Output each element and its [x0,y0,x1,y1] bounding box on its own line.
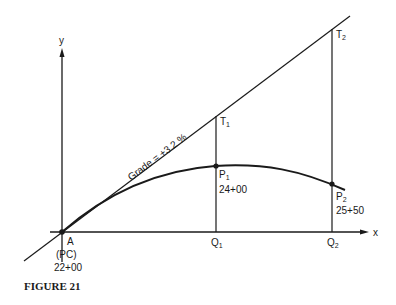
figure-caption: FIGURE 21 [24,280,81,292]
vertical-curve-diagram: y x Grade = +3.2 % A (PC) 22+00 T1 T2 P1… [0,0,396,305]
vertical-curve [62,165,345,232]
point-q1-label: Q1 [211,237,223,249]
point-a-station: 22+00 [54,262,83,273]
point-p2-label: P2 [336,191,347,203]
point-a-label: A [67,236,74,247]
point-p1-marker [213,163,218,168]
x-axis-arrow-icon [360,230,369,235]
y-axis-label: y [59,35,64,46]
grade-label: Grade = +3.2 % [126,131,189,182]
point-q2-label: Q2 [327,237,339,249]
y-axis-arrow-icon [60,48,65,57]
point-a-pc-label: (PC) [56,249,77,260]
x-axis-label: x [373,227,378,238]
point-p2-marker [329,181,334,186]
point-p2-station: 25+50 [336,205,365,216]
point-a-marker [59,229,65,235]
point-t2-label: T2 [336,29,346,41]
point-p1-station: 24+00 [219,184,248,195]
point-t1-label: T1 [220,116,230,128]
point-p1-label: P1 [219,169,230,181]
